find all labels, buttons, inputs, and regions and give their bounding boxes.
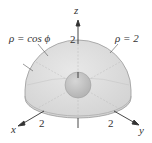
y-axis-label: y <box>139 125 144 136</box>
diagram-canvas <box>0 0 152 143</box>
inner-surface-label: ρ = cos ϕ <box>9 33 50 44</box>
z-tick-label: 2 <box>70 34 76 45</box>
y-tick-label: 2 <box>108 118 114 129</box>
z-axis-label: z <box>74 5 78 16</box>
y-arrow-icon <box>132 120 139 125</box>
z-arrow-icon <box>76 20 80 26</box>
x-axis-label: x <box>11 124 16 135</box>
leader-outer-label <box>110 44 118 53</box>
x-tick-label: 2 <box>39 118 45 129</box>
y-axis <box>114 111 135 123</box>
outer-surface-label: ρ = 2 <box>115 33 139 44</box>
x-arrow-icon <box>18 121 25 126</box>
